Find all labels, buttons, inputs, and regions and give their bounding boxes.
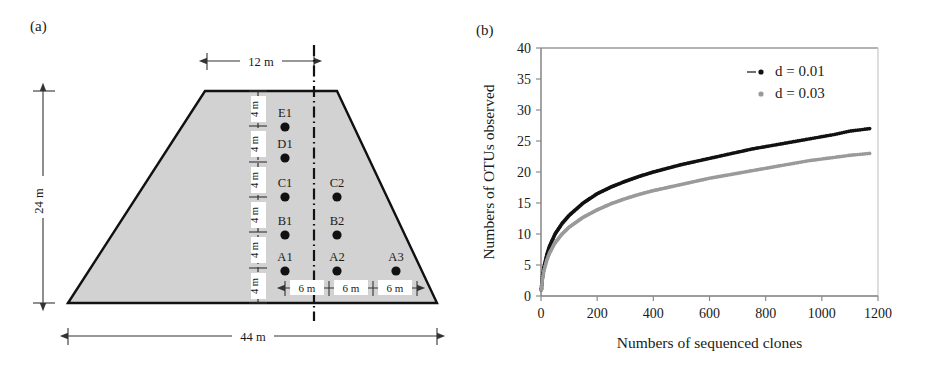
panel-b-rarefaction-chart: (b) 051015202530354002004006008001000120… <box>466 0 932 365</box>
sample-point-b2-label: B2 <box>330 214 345 228</box>
dimension-12m: 12 m <box>207 52 314 70</box>
panel-a-label: (a) <box>30 18 47 35</box>
legend-marker-1 <box>758 69 763 74</box>
y-tick-label-35: 35 <box>517 72 531 87</box>
horizontal-segment-label-3: 6 m <box>387 282 404 294</box>
sample-point-a2-label: A2 <box>329 250 344 264</box>
sample-point-c1-label: C1 <box>278 176 293 190</box>
legend-label-2: d = 0.03 <box>775 85 825 101</box>
sample-point-a2-dot[interactable] <box>332 266 341 275</box>
chart-legend: d = 0.01d = 0.03 <box>747 63 825 101</box>
y-tick-label-25: 25 <box>517 134 531 149</box>
sample-point-c1-dot[interactable] <box>280 192 289 201</box>
legend-label-1: d = 0.01 <box>775 63 825 79</box>
y-tick-label-0: 0 <box>524 289 531 304</box>
sample-point-a1-label: A1 <box>277 250 292 264</box>
y-tick-label-40: 40 <box>517 41 531 56</box>
y-tick-label-15: 15 <box>517 196 531 211</box>
dimension-44m-label: 44 m <box>240 330 266 344</box>
series-2-d-0-03 <box>539 152 871 292</box>
sample-point-c2-label: C2 <box>330 176 345 190</box>
sample-point-c2-dot[interactable] <box>332 192 341 201</box>
sample-point-b2-dot[interactable] <box>332 230 341 239</box>
sample-point-d1-dot[interactable] <box>280 153 289 162</box>
x-tick-label-800: 800 <box>755 306 776 321</box>
dimension-44m: 44 m <box>68 327 437 345</box>
dimension-12m-label: 12 m <box>248 55 274 69</box>
dimension-chain-horizontal: 6 m 6 m 6 m <box>285 280 417 296</box>
sample-point-d1-label: D1 <box>277 137 292 151</box>
x-tick-label-600: 600 <box>699 306 720 321</box>
sample-point-e1-dot[interactable] <box>280 122 289 131</box>
panel-a-site-diagram: (a) 12 m <box>0 0 466 365</box>
sample-point-a1-dot[interactable] <box>280 266 289 275</box>
horizontal-segment-label-2: 6 m <box>343 282 360 294</box>
dimension-24m-label: 24 m <box>32 188 46 214</box>
vertical-segment-label-5: 4 m <box>249 242 260 258</box>
panel-b-label: (b) <box>476 22 494 39</box>
y-axis-title: Numbers of OTUs observed <box>480 84 497 259</box>
y-tick-label-20: 20 <box>517 165 531 180</box>
series-1-d-0-01 <box>539 127 871 292</box>
vertical-segment-label-4: 4 m <box>249 207 260 223</box>
vertical-segment-label-1: 4 m <box>249 101 260 117</box>
rarefaction-chart-svg: 0510152025303540020040060080010001200Num… <box>466 0 932 365</box>
y-tick-label-5: 5 <box>524 258 531 273</box>
x-tick-label-400: 400 <box>643 306 664 321</box>
x-tick-label-0: 0 <box>538 306 545 321</box>
sample-point-b1-dot[interactable] <box>280 230 289 239</box>
sample-point-e1-label: E1 <box>278 106 292 120</box>
vertical-segment-label-3: 4 m <box>249 172 260 188</box>
vertical-segment-label-2: 4 m <box>249 136 260 152</box>
x-axis-title: Numbers of sequenced clones <box>617 334 803 351</box>
x-tick-label-200: 200 <box>587 306 608 321</box>
vertical-segment-label-6: 4 m <box>249 278 260 294</box>
x-tick-label-1200: 1200 <box>864 306 892 321</box>
data-point <box>868 127 872 131</box>
sample-point-b1-label: B1 <box>278 214 293 228</box>
site-plan-svg: 12 m 4 m 4 m 4 m 4 m 4 m 4 m <box>0 0 466 365</box>
data-point <box>868 152 872 156</box>
sample-point-a3-dot[interactable] <box>391 266 400 275</box>
y-tick-label-30: 30 <box>517 103 531 118</box>
y-tick-label-10: 10 <box>517 227 531 242</box>
horizontal-segment-label-1: 6 m <box>299 282 316 294</box>
dimension-24m: 24 m <box>32 91 55 303</box>
sample-point-a3-label: A3 <box>388 250 403 264</box>
x-tick-label-1000: 1000 <box>808 306 836 321</box>
legend-marker-2 <box>758 91 763 96</box>
